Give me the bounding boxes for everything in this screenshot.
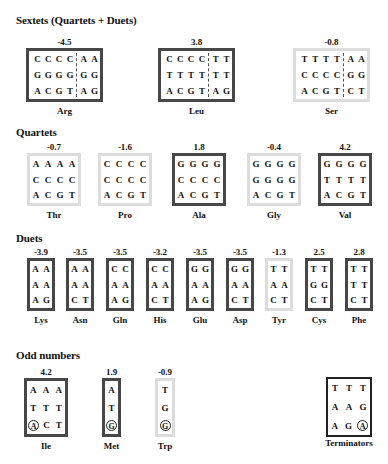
base: C [114, 158, 124, 170]
base: G [343, 420, 353, 432]
base: C [43, 189, 53, 201]
hydropathy-value: -0.9 [155, 367, 175, 377]
base: A [41, 384, 51, 396]
base: C [188, 174, 198, 186]
base: A [107, 384, 117, 396]
base: G [263, 174, 273, 186]
base: G [356, 69, 367, 81]
base: C [310, 69, 321, 81]
base: T [54, 419, 64, 431]
base: A [176, 189, 186, 201]
amino-acid-label: Pro [88, 210, 162, 220]
codon-box: AAAAAG [27, 258, 55, 311]
base: G [89, 85, 100, 97]
codon-box: AAATTTACT [24, 378, 68, 437]
base: A [32, 85, 43, 97]
codon-row: ACGTAG [161, 85, 232, 97]
base: G [32, 69, 43, 81]
base: G [275, 158, 285, 170]
hydropathy-value: -3.5 [106, 247, 134, 257]
base: G [188, 158, 198, 170]
codon-row: ACGT [321, 189, 369, 201]
base: A [280, 279, 290, 291]
codon-row: ACGT [250, 189, 298, 201]
group-ile: 4.2AAATTTACTIle [24, 367, 68, 456]
base: A [230, 279, 240, 291]
base: C [161, 263, 171, 275]
base: T [175, 69, 186, 81]
hydropathy-value: -0.7 [27, 142, 81, 152]
group-asp: -3.5GGAACTAsp [226, 247, 254, 330]
group-cys: 2.5TTGGCTCys [305, 247, 333, 330]
base: G [275, 174, 285, 186]
base: T [221, 53, 232, 65]
group-pro: -1.6CCCCCCCCACGTPro [98, 142, 152, 225]
base: C [349, 294, 359, 306]
base: G [321, 85, 332, 97]
group-gln: -3.5CCAAAGGln [106, 247, 134, 330]
codon-box: CCAAAG [106, 258, 134, 311]
codon-row: CCCC [30, 174, 78, 186]
codon-box: CCAACT [146, 258, 174, 311]
codon-row: CCCCTT [161, 53, 232, 65]
base: A [28, 384, 38, 396]
hydropathy-value: 2.5 [305, 247, 333, 257]
base: T [334, 174, 344, 186]
group-his: -3.2CCAACTHis [146, 247, 174, 330]
base: T [186, 69, 197, 81]
codon-box: TTTTCT [345, 258, 373, 311]
base: T [196, 85, 207, 97]
group-met: 1.9ATGMet [102, 367, 121, 456]
base: C [175, 85, 186, 97]
hydropathy-value: 4.2 [318, 142, 372, 152]
base: G [126, 189, 136, 201]
base: T [269, 263, 279, 275]
duets-title: Duets [16, 232, 42, 244]
amino-acid-label: Ala [162, 210, 236, 220]
hydropathy-value: -4.5 [26, 37, 103, 47]
base: A [330, 420, 340, 432]
base: C [176, 174, 186, 186]
base: C [126, 158, 136, 170]
group-leu: 3.8CCCCTTTTTTTTACGTAGLeu [158, 37, 235, 121]
base: A [42, 263, 52, 275]
base: G [334, 158, 344, 170]
base: C [102, 158, 112, 170]
circled-base: G [160, 420, 171, 431]
codon-row: CT [229, 294, 251, 306]
codon-row: AA [30, 279, 52, 291]
group-ala: 1.8GGGGCCCCACGTAla [172, 142, 226, 225]
codon-row: AGA [328, 420, 370, 432]
base: A [356, 53, 367, 65]
codon-row: GGGG [321, 158, 369, 170]
base: T [320, 294, 330, 306]
base: A [70, 279, 80, 291]
base: A [190, 279, 200, 291]
base: A [201, 279, 211, 291]
base: G [346, 189, 356, 201]
base: T [212, 189, 222, 201]
codon-row: G [158, 419, 172, 431]
base: A [322, 189, 332, 201]
base: T [360, 279, 370, 291]
base: A [31, 263, 41, 275]
group-ser: -0.8TTTTAACCCCGGACGTCTSer [293, 37, 370, 121]
hydropathy-value: 2.8 [345, 247, 373, 257]
codon-row: TT [348, 263, 370, 275]
base: C [54, 53, 65, 65]
base: C [64, 53, 75, 65]
base: T [280, 294, 290, 306]
base: A [31, 158, 41, 170]
circled-base: A [357, 420, 368, 431]
hydropathy-value: -3.5 [186, 247, 214, 257]
hydropathy-value: 1.9 [102, 367, 121, 377]
base: A [31, 189, 41, 201]
codon-row: AA [109, 279, 131, 291]
base: G [309, 279, 319, 291]
base: C [138, 158, 148, 170]
codon-box: TTTAAGAGA [326, 377, 372, 437]
circled-base: G [106, 420, 117, 431]
base: G [54, 85, 65, 97]
quartet-duet-divider [208, 53, 209, 97]
codon-row: CCCCGG [296, 69, 367, 81]
